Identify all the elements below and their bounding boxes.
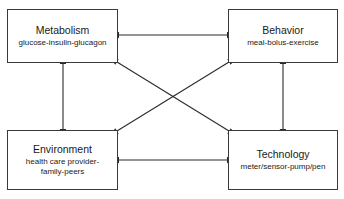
node-behavior-title: Behavior [262, 24, 303, 37]
node-metabolism: Metabolism glucose-insulin-glucagon [7, 9, 118, 63]
node-metabolism-title: Metabolism [36, 24, 90, 37]
node-behavior-subtitle: meal-bolus-exercise [247, 38, 319, 48]
node-metabolism-subtitle: glucose-insulin-glucagon [18, 38, 106, 48]
diagram-canvas: Metabolism glucose-insulin-glucagon Beha… [0, 0, 344, 199]
node-technology: Technology meter/sensor-pump/pen [228, 130, 338, 190]
node-technology-title: Technology [256, 148, 309, 161]
node-environment-title: Environment [33, 143, 92, 156]
node-technology-subtitle: meter/sensor-pump/pen [241, 162, 326, 172]
node-environment-subtitle: health care provider- family-peers [26, 157, 99, 177]
node-behavior: Behavior meal-bolus-exercise [228, 9, 338, 63]
node-environment: Environment health care provider- family… [7, 130, 118, 190]
